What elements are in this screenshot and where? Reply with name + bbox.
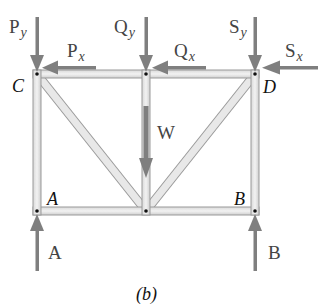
arrow-B-icon	[248, 214, 262, 271]
label-Py: Py	[9, 17, 27, 40]
pin-top-middle	[144, 72, 148, 76]
label-B-reaction-base: B	[268, 242, 281, 263]
label-Sy: Sy	[229, 17, 247, 40]
label-Qx-sub: x	[189, 49, 195, 64]
label-Qx-base: Q	[174, 40, 188, 61]
joint-label-D: D	[263, 78, 276, 96]
pin-C	[35, 72, 39, 76]
joint-label-A: A	[47, 190, 58, 208]
label-Qy-sub: y	[129, 25, 135, 40]
arrow-Py-icon	[30, 17, 44, 72]
label-Qy: Qy	[114, 17, 135, 40]
label-Px-sub: x	[79, 49, 85, 64]
pin-D	[253, 72, 257, 76]
label-Py-sub: y	[21, 25, 27, 40]
label-Px: Px	[67, 41, 85, 64]
label-Sx-base: S	[285, 40, 296, 61]
label-A-reaction: A	[48, 243, 62, 262]
label-Qy-base: Q	[114, 16, 128, 37]
pin-B	[253, 209, 257, 213]
pin-A	[35, 209, 39, 213]
label-B-reaction: B	[268, 243, 281, 262]
joint-label-C: C	[12, 77, 24, 95]
truss-free-body-diagram: Py Px Qy Qx Sy Sx W A B C D A B (b)	[0, 0, 323, 304]
arrow-W-icon	[139, 106, 153, 178]
label-Sx: Sx	[285, 41, 303, 64]
pin-bottom-middle	[144, 209, 148, 213]
right-vertical-member	[251, 70, 259, 215]
label-W: W	[157, 123, 175, 142]
label-Py-base: P	[9, 16, 20, 37]
label-Sy-sub: y	[241, 25, 247, 40]
arrow-Sy-icon	[248, 17, 262, 72]
label-Qx: Qx	[174, 41, 195, 64]
left-vertical-member	[33, 70, 41, 215]
label-W-base: W	[157, 122, 175, 143]
label-Sy-base: S	[229, 16, 240, 37]
label-A-reaction-base: A	[48, 242, 62, 263]
label-Px-base: P	[67, 40, 78, 61]
label-Sx-sub: x	[297, 49, 303, 64]
arrow-Qy-icon	[139, 17, 153, 72]
arrow-A-icon	[30, 214, 44, 271]
joint-label-B: B	[234, 190, 245, 208]
figure-caption: (b)	[136, 285, 157, 303]
